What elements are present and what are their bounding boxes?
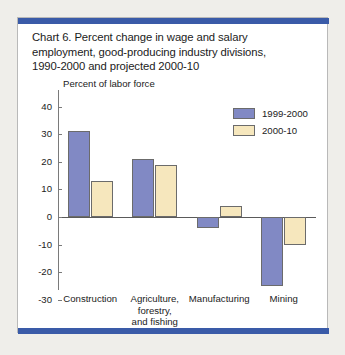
x-category-label-line: Agriculture, bbox=[123, 293, 188, 305]
bar bbox=[155, 165, 177, 217]
y-tick-mark bbox=[58, 217, 62, 218]
y-tick-mark bbox=[58, 107, 62, 108]
legend-swatch-series-2 bbox=[233, 125, 255, 136]
bar bbox=[197, 217, 219, 228]
y-tick-label: -20 bbox=[26, 267, 52, 277]
y-tick-label: 20 bbox=[26, 157, 52, 167]
y-tick-label: 40 bbox=[26, 102, 52, 112]
x-category-label-line: forestry, bbox=[123, 305, 188, 317]
y-tick-mark bbox=[58, 162, 62, 163]
legend-item-series-1: 1999-2000 bbox=[233, 106, 308, 121]
bar bbox=[220, 206, 242, 217]
bar bbox=[261, 217, 283, 286]
y-tick-label: -30 bbox=[26, 295, 52, 305]
chart-title-line-3: 1990-2000 and projected 2000-10 bbox=[32, 59, 317, 74]
top-accent-rule bbox=[18, 18, 329, 24]
y-tick-mark bbox=[58, 272, 62, 273]
legend-item-series-2: 2000-10 bbox=[233, 123, 308, 138]
y-tick-mark bbox=[58, 245, 62, 246]
x-category-label-line: Construction bbox=[58, 293, 123, 305]
y-tick-label: 10 bbox=[26, 184, 52, 194]
y-tick-mark bbox=[58, 189, 62, 190]
legend-label-series-2: 2000-10 bbox=[262, 125, 297, 136]
bar bbox=[132, 159, 154, 217]
chart-title-line-1: Chart 6. Percent change in wage and sala… bbox=[32, 30, 317, 45]
y-axis-title: Percent of labor force bbox=[63, 78, 155, 89]
x-category-label: Mining bbox=[252, 293, 317, 305]
bar bbox=[91, 181, 113, 217]
legend-label-series-1: 1999-2000 bbox=[262, 108, 308, 119]
chart-title: Chart 6. Percent change in wage and sala… bbox=[32, 30, 317, 74]
chart-legend: 1999-2000 2000-10 bbox=[233, 106, 308, 140]
bottom-accent-rule bbox=[18, 328, 329, 334]
x-category-label: Agriculture,forestry,and fishing bbox=[123, 293, 188, 328]
chart-title-line-2: employment, good-producing industry divi… bbox=[32, 45, 317, 60]
x-category-label: Manufacturing bbox=[187, 293, 252, 305]
x-category-label-line: Mining bbox=[252, 293, 317, 305]
y-tick-label: 30 bbox=[26, 129, 52, 139]
x-category-label-line: and fishing bbox=[123, 316, 188, 328]
y-tick-label: 0 bbox=[26, 212, 52, 222]
y-tick-label: -10 bbox=[26, 240, 52, 250]
x-category-label: Construction bbox=[58, 293, 123, 305]
y-tick-mark bbox=[58, 134, 62, 135]
legend-swatch-series-1 bbox=[233, 108, 255, 119]
bar bbox=[284, 217, 306, 245]
bar bbox=[68, 131, 90, 217]
chart-figure: Chart 6. Percent change in wage and sala… bbox=[17, 17, 328, 333]
x-category-label-line: Manufacturing bbox=[187, 293, 252, 305]
